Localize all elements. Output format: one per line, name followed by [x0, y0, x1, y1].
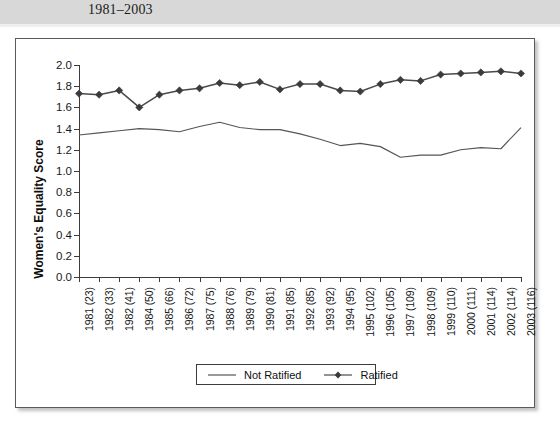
data-point-marker: [477, 69, 484, 76]
y-tick-label: 0.0: [56, 271, 72, 283]
x-tick-label: 1993 (92): [324, 287, 336, 331]
data-point-marker: [357, 88, 364, 95]
legend-label-ratified: Ratified: [360, 369, 397, 381]
y-tick-label: 2.0: [56, 59, 72, 71]
data-point-marker: [497, 68, 504, 75]
x-tick-label: 1986 (72): [183, 287, 195, 331]
y-tick-label: 1.8: [56, 80, 72, 92]
plot-area: 0.00.20.40.60.81.01.21.41.61.82.0 1981 (…: [79, 65, 521, 277]
x-tick-label: 1989 (79): [244, 287, 256, 331]
legend-label-not-ratified: Not Ratified: [244, 369, 301, 381]
data-point-marker: [417, 77, 424, 84]
data-point-marker: [95, 91, 102, 98]
y-tick-label: 0.8: [56, 186, 72, 198]
x-tick-label: 2002 (114): [505, 287, 517, 336]
y-tick-label: 1.2: [56, 144, 72, 156]
x-tick-label: 1990 (81): [264, 287, 276, 331]
legend-line-diamond-swatch-icon: [323, 370, 353, 380]
data-point-marker: [397, 76, 404, 83]
line-ratified: [79, 71, 521, 107]
x-tick-label: 2003 (116): [525, 287, 537, 336]
data-point-marker: [276, 86, 283, 93]
data-point-marker: [377, 80, 384, 87]
data-point-marker: [296, 80, 303, 87]
data-point-marker: [316, 80, 323, 87]
x-tick-label: 1998 (109): [425, 287, 437, 337]
y-tick-label: 1.6: [56, 101, 72, 113]
y-axis-title: Women's Equality Score: [32, 103, 46, 315]
x-tick-label: 1995 (102): [364, 287, 376, 337]
x-tick-label: 1984 (50): [143, 287, 155, 331]
x-tick-mark: [521, 277, 522, 282]
y-tick-label: 0.2: [56, 250, 72, 262]
x-tick-label: 1996 (105): [384, 287, 396, 337]
data-point-marker: [216, 79, 223, 86]
y-tick-label: 1.0: [56, 165, 72, 177]
legend-line-swatch-icon: [207, 370, 237, 380]
data-point-marker: [156, 91, 163, 98]
caption-year-range: 1981–2003: [88, 2, 153, 18]
data-point-marker: [337, 87, 344, 94]
chart-legend: Not Ratified Ratified: [196, 364, 376, 385]
series-plot: [79, 65, 521, 278]
x-tick-label: 1994 (95): [344, 287, 356, 331]
caption-band: 1981–2003: [0, 0, 560, 24]
legend-entry-not-ratified: Not Ratified: [207, 365, 301, 384]
x-tick-label: 1991 (85): [284, 287, 296, 331]
y-tick-label: 0.6: [56, 207, 72, 219]
x-tick-label: 2001 (114): [485, 287, 497, 336]
data-point-marker: [236, 82, 243, 89]
x-tick-label: 1988 (76): [224, 287, 236, 331]
x-tick-label: 1985 (66): [163, 287, 175, 331]
x-tick-label: 1987 (75): [204, 287, 216, 331]
x-tick-label: 1981 (23): [83, 287, 95, 331]
x-tick-label: 1982 (41): [123, 287, 135, 331]
chart-figure-frame: Women's Equality Score 0.00.20.40.60.81.…: [15, 38, 535, 408]
y-tick-label: 1.4: [56, 123, 72, 135]
data-point-marker: [176, 87, 183, 94]
y-tick-label: 0.4: [56, 229, 72, 241]
data-point-marker: [75, 90, 82, 97]
data-point-marker: [457, 70, 464, 77]
x-tick-label: 1999 (110): [445, 287, 457, 336]
x-tick-label: 2000 (111): [465, 287, 477, 335]
legend-entry-ratified: Ratified: [323, 365, 397, 384]
data-point-marker: [517, 70, 524, 77]
data-point-marker: [256, 78, 263, 85]
data-point-marker: [196, 85, 203, 92]
x-tick-label: 1982 (33): [103, 287, 115, 331]
data-point-marker: [437, 71, 444, 78]
x-tick-label: 1992 (85): [304, 287, 316, 331]
line-not-ratified: [79, 122, 521, 157]
x-tick-label: 1997 (109): [404, 287, 416, 337]
